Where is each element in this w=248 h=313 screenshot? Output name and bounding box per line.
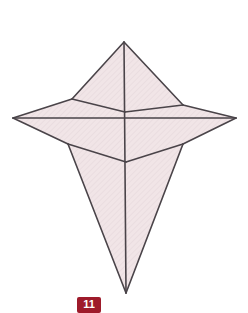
- polyhedron-figure: [0, 0, 248, 313]
- figure-number-badge: 11: [77, 297, 101, 313]
